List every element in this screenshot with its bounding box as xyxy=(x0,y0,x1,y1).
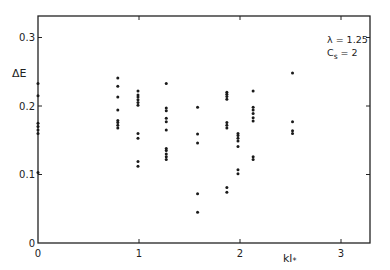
data-point xyxy=(165,149,168,152)
data-point xyxy=(165,152,168,155)
data-point xyxy=(116,109,119,112)
data-point xyxy=(236,137,239,140)
data-point xyxy=(196,133,199,136)
data-point xyxy=(136,98,139,101)
data-point xyxy=(225,98,228,101)
data-point xyxy=(136,89,139,92)
data-point xyxy=(136,104,139,107)
data-point xyxy=(37,122,40,125)
data-point xyxy=(116,126,119,129)
data-point xyxy=(165,158,168,161)
x-tick-label: 1 xyxy=(136,248,142,259)
y-tick-label: 0.2 xyxy=(19,101,35,112)
data-point xyxy=(37,94,40,97)
y-axis-label: ΔE xyxy=(12,67,27,80)
data-point xyxy=(116,76,119,79)
data-point xyxy=(252,112,255,115)
data-point xyxy=(165,117,168,120)
data-point xyxy=(252,158,255,161)
data-point xyxy=(136,101,139,104)
scatter-chart: 012300.10.20.3 ΔE kl* λ = 1.25 Cs = 2 xyxy=(0,0,390,270)
plot-frame xyxy=(38,16,370,243)
axis-ticks: 012300.10.20.3 xyxy=(19,16,370,259)
data-point xyxy=(165,120,168,123)
data-point xyxy=(225,186,228,189)
data-point xyxy=(291,120,294,123)
data-point xyxy=(291,132,294,135)
data-point xyxy=(196,106,199,109)
data-point xyxy=(236,145,239,148)
data-point xyxy=(116,124,119,127)
data-point xyxy=(236,168,239,171)
y-tick-label: 0 xyxy=(29,238,35,249)
data-point xyxy=(116,85,119,88)
data-point xyxy=(252,155,255,158)
data-point xyxy=(116,121,119,124)
legend-annotation: λ = 1.25 Cs = 2 xyxy=(327,34,368,61)
data-point xyxy=(236,139,239,142)
lambda-annotation: λ = 1.25 xyxy=(327,34,368,45)
data-points xyxy=(37,72,295,214)
data-point xyxy=(291,129,294,132)
x-axis-label: kl* xyxy=(283,252,296,266)
x-tick-label: 2 xyxy=(237,248,243,259)
data-point xyxy=(136,160,139,163)
data-point xyxy=(37,171,40,174)
data-point xyxy=(252,116,255,119)
x-tick-label: 0 xyxy=(35,248,41,259)
data-point xyxy=(252,120,255,123)
data-point xyxy=(236,172,239,175)
y-tick-label: 0.3 xyxy=(19,32,35,43)
data-point xyxy=(165,128,168,131)
data-point xyxy=(37,128,40,131)
data-point xyxy=(136,96,139,99)
data-point xyxy=(136,137,139,140)
data-point xyxy=(291,72,294,75)
data-point xyxy=(196,141,199,144)
data-point xyxy=(225,126,228,129)
data-point xyxy=(252,89,255,92)
data-point xyxy=(165,155,168,158)
data-point xyxy=(37,82,40,85)
data-point xyxy=(136,132,139,135)
data-point xyxy=(116,96,119,99)
data-point xyxy=(225,95,228,98)
data-point xyxy=(136,165,139,168)
data-point xyxy=(252,106,255,109)
data-point xyxy=(165,107,168,110)
data-point xyxy=(225,121,228,124)
x-tick-label: 3 xyxy=(338,248,344,259)
data-point xyxy=(236,134,239,137)
data-point xyxy=(225,124,228,127)
data-point xyxy=(37,132,40,135)
cs-annotation: Cs = 2 xyxy=(327,47,358,61)
y-tick-label: 0.1 xyxy=(19,169,35,180)
data-point xyxy=(252,109,255,112)
data-point xyxy=(37,125,40,128)
data-point xyxy=(196,192,199,195)
data-point xyxy=(165,82,168,85)
data-point xyxy=(196,211,199,214)
data-point xyxy=(165,109,168,112)
data-point xyxy=(225,191,228,194)
